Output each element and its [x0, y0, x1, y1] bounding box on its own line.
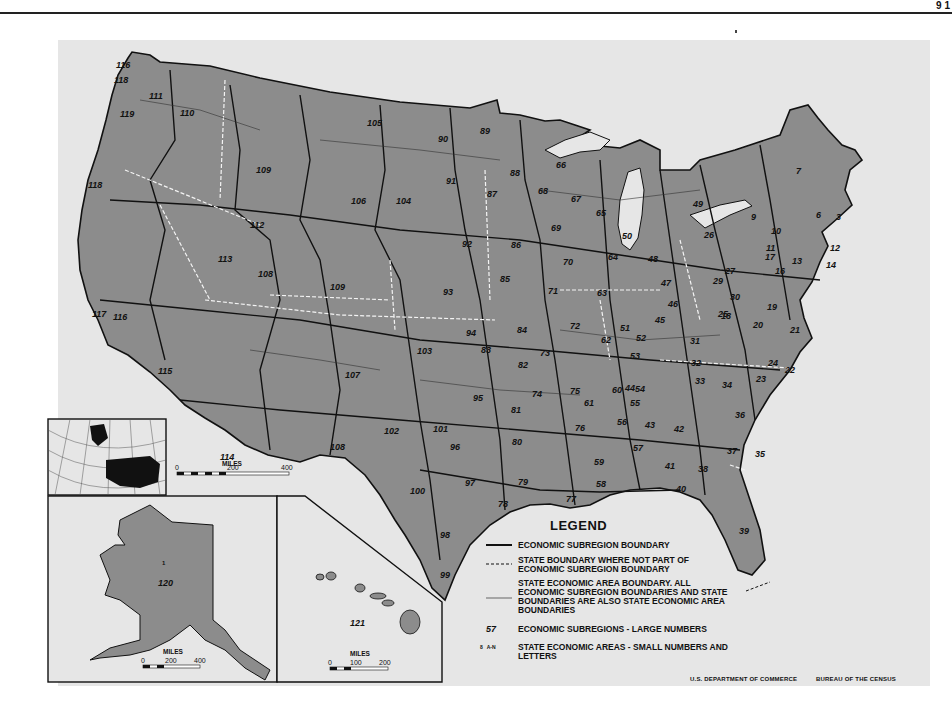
subregion-label: 105 — [367, 118, 382, 128]
subregion-label: 81 — [511, 405, 521, 415]
subregion-label: 113 — [218, 254, 232, 264]
subregion-label: 86 — [511, 240, 521, 250]
subregion-label: 83 — [481, 345, 491, 355]
hawaii-scale-tick-100: 100 — [350, 659, 362, 666]
subregion-label: 95 — [473, 393, 483, 403]
subregion-label: 13 — [792, 256, 802, 266]
subregion-label: 102 — [384, 426, 399, 436]
subregion-label: 6 — [816, 210, 821, 220]
subregion-label: 109 — [330, 282, 345, 292]
subregion-label: 109 — [256, 165, 271, 175]
alaska-scale-tick-200: 200 — [165, 657, 177, 664]
subregion-label: 69 — [551, 223, 561, 233]
subregion-label: 14 — [826, 260, 836, 270]
subregion-label: 76 — [575, 423, 585, 433]
subregion-label: 48 — [648, 254, 658, 264]
subregion-label: 26 — [704, 230, 714, 240]
alaska-scale-tick-400: 400 — [194, 657, 206, 664]
subregion-label: 111 — [149, 91, 163, 101]
subregion-label: 61 — [584, 398, 594, 408]
subregion-label: 55 — [630, 398, 640, 408]
subregion-label: 106 — [351, 196, 366, 206]
hawaii-scale-unit: MILES — [350, 650, 370, 657]
subregion-label: 12 — [830, 243, 840, 253]
subregion-label: 91 — [446, 176, 456, 186]
subregion-label: 104 — [396, 196, 411, 206]
subregion-label: 79 — [518, 477, 528, 487]
subregion-label: 70 — [563, 257, 573, 267]
subregion-label: 16 — [775, 266, 785, 276]
subregion-label: 101 — [433, 424, 448, 434]
florida-keys — [746, 582, 770, 591]
subregion-label: 107 — [345, 370, 360, 380]
subregion-label: 80 — [512, 437, 522, 447]
subregion-label: 88 — [510, 168, 520, 178]
subregion-label: 36 — [735, 410, 745, 420]
subregion-label: 116 — [116, 60, 130, 70]
subregion-label: 32 — [691, 358, 701, 368]
subregion-label: 30 — [730, 292, 740, 302]
subregion-label: 71 — [548, 286, 558, 296]
subregion-label: 67 — [571, 194, 581, 204]
legend-symbol-57: 57 — [486, 625, 510, 634]
main-scale-tick-0: 0 — [175, 464, 179, 471]
subregion-label: 85 — [500, 274, 510, 284]
subregion-label: 108 — [258, 269, 273, 279]
subregion-label: 82 — [518, 360, 528, 370]
subregion-label: 3 — [836, 212, 841, 222]
legend-title: LEGEND — [550, 518, 607, 533]
subregion-label: 49 — [693, 199, 703, 209]
subregion-label: 31 — [690, 336, 700, 346]
subregion-label: 89 — [480, 126, 490, 136]
subregion-label: 54 — [635, 384, 645, 394]
alaska-area-number: 1 — [162, 560, 165, 566]
subregion-label: 51 — [620, 323, 630, 333]
subregion-label: 74 — [532, 389, 542, 399]
subregion-label: 20 — [753, 320, 763, 330]
subregion-label: 44 — [625, 383, 635, 393]
subregion-label: 73 — [540, 348, 550, 358]
subregion-label: 27 — [725, 266, 735, 276]
alaska-scale-tick-0: 0 — [141, 657, 145, 664]
subregion-label: 117 — [92, 309, 106, 319]
subregion-label: 7 — [796, 166, 801, 176]
subregion-label: 84 — [517, 325, 527, 335]
subregion-label: 43 — [645, 420, 655, 430]
main-scale-tick-200: 200 — [227, 464, 239, 471]
subregion-label: 92 — [462, 239, 472, 249]
subregion-label: 63 — [597, 288, 607, 298]
subregion-label: 47 — [661, 278, 671, 288]
subregion-label: 10 — [771, 226, 781, 236]
subregion-label: 45 — [655, 315, 665, 325]
subregion-label: 9 — [751, 212, 756, 222]
subregion-label: 37 — [727, 446, 737, 456]
subregion-label: 46 — [668, 299, 678, 309]
subregion-label: 23 — [756, 374, 766, 384]
locator-globe-inset — [48, 419, 166, 495]
subregion-label: 56 — [617, 417, 627, 427]
subregion-label: 121 — [350, 618, 365, 628]
subregion-label: 38 — [698, 464, 708, 474]
subregion-label: 39 — [739, 526, 749, 536]
credit-bureau: BUREAU OF THE CENSUS — [816, 676, 896, 682]
alaska-scale-unit: MILES — [163, 648, 183, 655]
subregion-label: 57 — [633, 443, 643, 453]
subregion-label: 77 — [566, 494, 576, 504]
subregion-label: 58 — [596, 479, 606, 489]
subregion-label: 115 — [158, 366, 172, 376]
subregion-label: 50 — [622, 231, 632, 241]
subregion-label: 41 — [665, 461, 675, 471]
main-scale-tick-400: 400 — [281, 464, 293, 471]
subregion-label: 21 — [790, 325, 800, 335]
subregion-label: 17 — [765, 252, 775, 262]
subregion-label: 34 — [722, 380, 732, 390]
subregion-label: 72 — [570, 321, 580, 331]
subregion-label: 29 — [713, 276, 723, 286]
subregion-label: 18 — [721, 311, 731, 321]
subregion-label: 42 — [674, 424, 684, 434]
subregion-label: 24 — [768, 358, 778, 368]
subregion-label: 99 — [440, 570, 450, 580]
subregion-label: 68 — [538, 186, 548, 196]
hawaii-scale-tick-0: 0 — [328, 659, 332, 666]
credit-department: U.S. DEPARTMENT OF COMMERCE — [690, 676, 797, 682]
